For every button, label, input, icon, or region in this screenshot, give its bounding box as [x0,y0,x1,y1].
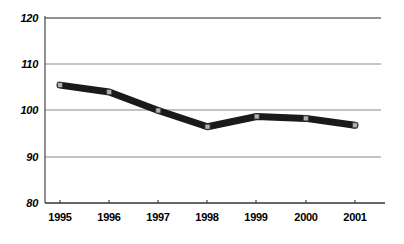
data-point-2000 [303,116,308,121]
xtick-label-1999: 1999 [236,212,276,223]
ytick-label-90: 90 [12,152,38,163]
ytick-label-80: 80 [12,198,38,209]
xtick-label-2000: 2000 [286,212,326,223]
data-point-1996 [107,90,112,95]
ytick-label-100: 100 [12,105,38,116]
data-point-1998 [205,124,210,129]
series-polyline [60,85,355,127]
xtick-label-1996: 1996 [89,212,129,223]
ytick-label-110: 110 [12,59,38,70]
xtick-label-2001: 2001 [335,212,375,223]
data-series-line [60,85,355,127]
xtick-label-1995: 1995 [40,212,80,223]
line-chart: 120 110 100 90 80 1995 1996 1997 1998 19… [0,0,404,244]
data-point-1995 [58,83,63,88]
data-point-1997 [156,108,161,113]
data-point-1999 [254,114,259,119]
xtick-label-1997: 1997 [138,212,178,223]
data-point-2001 [353,123,358,128]
chart-canvas [0,0,404,244]
xtick-label-1998: 1998 [187,212,227,223]
ytick-label-120: 120 [12,13,38,24]
